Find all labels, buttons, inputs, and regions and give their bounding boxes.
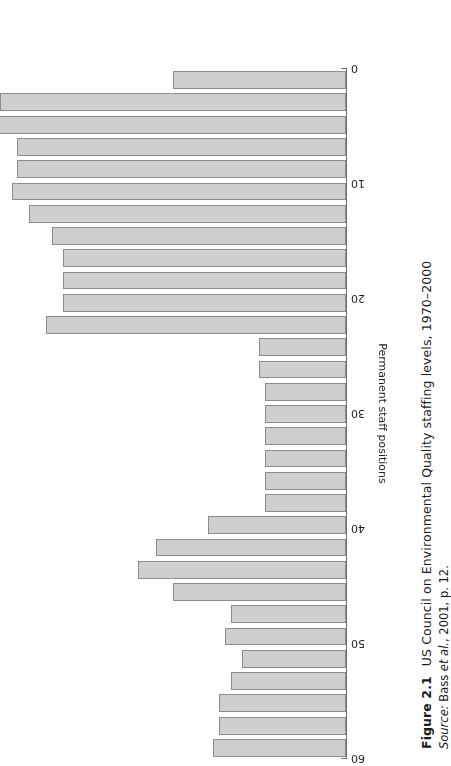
bar-row[interactable]: 1975 xyxy=(0,183,346,201)
value-axis-tick-label: 50 xyxy=(351,638,365,651)
bar-row[interactable]: 1997 xyxy=(0,672,346,690)
bar-row[interactable]: 1976 xyxy=(0,205,346,223)
bar-row[interactable]: 1981 xyxy=(0,316,346,334)
bar[interactable] xyxy=(17,138,346,156)
bar[interactable] xyxy=(63,249,346,267)
bar[interactable] xyxy=(213,739,346,757)
figure-title: US Council on Environmental Quality staf… xyxy=(419,261,434,667)
bar-row[interactable]: 1972 xyxy=(0,116,346,134)
figure-caption-block: Figure 2.1US Council on Environmental Qu… xyxy=(393,0,451,759)
bar[interactable] xyxy=(0,94,346,112)
value-axis-line xyxy=(346,69,347,759)
value-axis-title: Permanent staff positions xyxy=(375,69,391,759)
bar[interactable] xyxy=(265,450,346,468)
value-axis-tick-label: 60 xyxy=(351,753,365,766)
bar[interactable] xyxy=(225,628,346,646)
bar[interactable] xyxy=(29,205,346,223)
source-label: Source: xyxy=(437,705,451,749)
bar-row[interactable]: 1970 xyxy=(0,71,346,89)
bar-row[interactable]: 1996 xyxy=(0,650,346,668)
bar[interactable] xyxy=(265,383,346,401)
bar-row[interactable]: 1993 xyxy=(0,583,346,601)
value-axis-tick-label: 30 xyxy=(351,408,365,421)
bar[interactable] xyxy=(173,71,346,89)
bar[interactable] xyxy=(219,717,346,735)
source-citation: , 2001, p. 12. xyxy=(437,565,451,642)
bar-row[interactable]: 1977 xyxy=(0,227,346,245)
figure-source: Source: Bass et al., 2001, p. 12. xyxy=(437,565,451,749)
bar[interactable] xyxy=(260,338,347,356)
bar-row[interactable]: 1986 xyxy=(0,427,346,445)
value-axis-title-text: Permanent staff positions xyxy=(376,344,389,484)
bar-row[interactable]: 1990 xyxy=(0,516,346,534)
bar-row[interactable]: 1995 xyxy=(0,628,346,646)
bar-row[interactable]: 1992 xyxy=(0,561,346,579)
bar[interactable] xyxy=(63,294,346,312)
value-axis-tick-label: 20 xyxy=(351,293,365,306)
bar[interactable] xyxy=(17,160,346,178)
bar[interactable] xyxy=(265,494,346,512)
bar[interactable] xyxy=(156,539,346,557)
bar-row[interactable]: 1985 xyxy=(0,405,346,423)
bar-row[interactable]: 1988 xyxy=(0,472,346,490)
bar[interactable] xyxy=(260,361,347,379)
bar-row[interactable]: 1974 xyxy=(0,160,346,178)
source-etal: et al. xyxy=(437,642,451,671)
value-axis-tick-labels: 0102030405060 xyxy=(349,69,375,759)
bar-row[interactable]: 1984 xyxy=(0,383,346,401)
value-axis-tick-label: 10 xyxy=(351,178,365,191)
bar[interactable] xyxy=(0,116,346,134)
bar[interactable] xyxy=(52,227,346,245)
bar-row[interactable]: 1989 xyxy=(0,494,346,512)
bar-row[interactable]: 1998 xyxy=(0,694,346,712)
bar[interactable] xyxy=(231,672,346,690)
bar-row[interactable]: 1980 xyxy=(0,294,346,312)
bar-row[interactable]: 2000 xyxy=(0,739,346,757)
bar-row[interactable]: 1971 xyxy=(0,94,346,112)
figure-caption-title: Figure 2.1US Council on Environmental Qu… xyxy=(419,261,435,749)
bar[interactable] xyxy=(231,605,346,623)
bar-row[interactable]: 1978 xyxy=(0,249,346,267)
value-axis-tick-label: 0 xyxy=(351,63,358,76)
plot-area: 1970197119721973197419751976197719781979… xyxy=(0,69,346,759)
bar-row[interactable]: 1979 xyxy=(0,272,346,290)
figure-number: Figure 2.1 xyxy=(419,676,434,749)
bar[interactable] xyxy=(12,183,346,201)
bar-row[interactable]: 1999 xyxy=(0,717,346,735)
source-author: Bass xyxy=(437,671,451,705)
bar[interactable] xyxy=(265,405,346,423)
bar-chart: Permanent staff positions 0102030405060 … xyxy=(0,0,393,759)
value-axis-tick-label: 40 xyxy=(351,523,365,536)
bar-row[interactable]: 1994 xyxy=(0,605,346,623)
bar[interactable] xyxy=(265,472,346,490)
bar-row[interactable]: 1973 xyxy=(0,138,346,156)
bar[interactable] xyxy=(63,272,346,290)
bar[interactable] xyxy=(46,316,346,334)
bar[interactable] xyxy=(208,516,346,534)
bar-row[interactable]: 1991 xyxy=(0,539,346,557)
bar-row[interactable]: 1987 xyxy=(0,450,346,468)
bar[interactable] xyxy=(219,694,346,712)
bar[interactable] xyxy=(242,650,346,668)
bar-row[interactable]: 1982 xyxy=(0,338,346,356)
bar[interactable] xyxy=(138,561,346,579)
bar[interactable] xyxy=(173,583,346,601)
rotated-chart-container: Permanent staff positions 0102030405060 … xyxy=(0,0,393,759)
bar-row[interactable]: 1983 xyxy=(0,361,346,379)
bar[interactable] xyxy=(265,427,346,445)
